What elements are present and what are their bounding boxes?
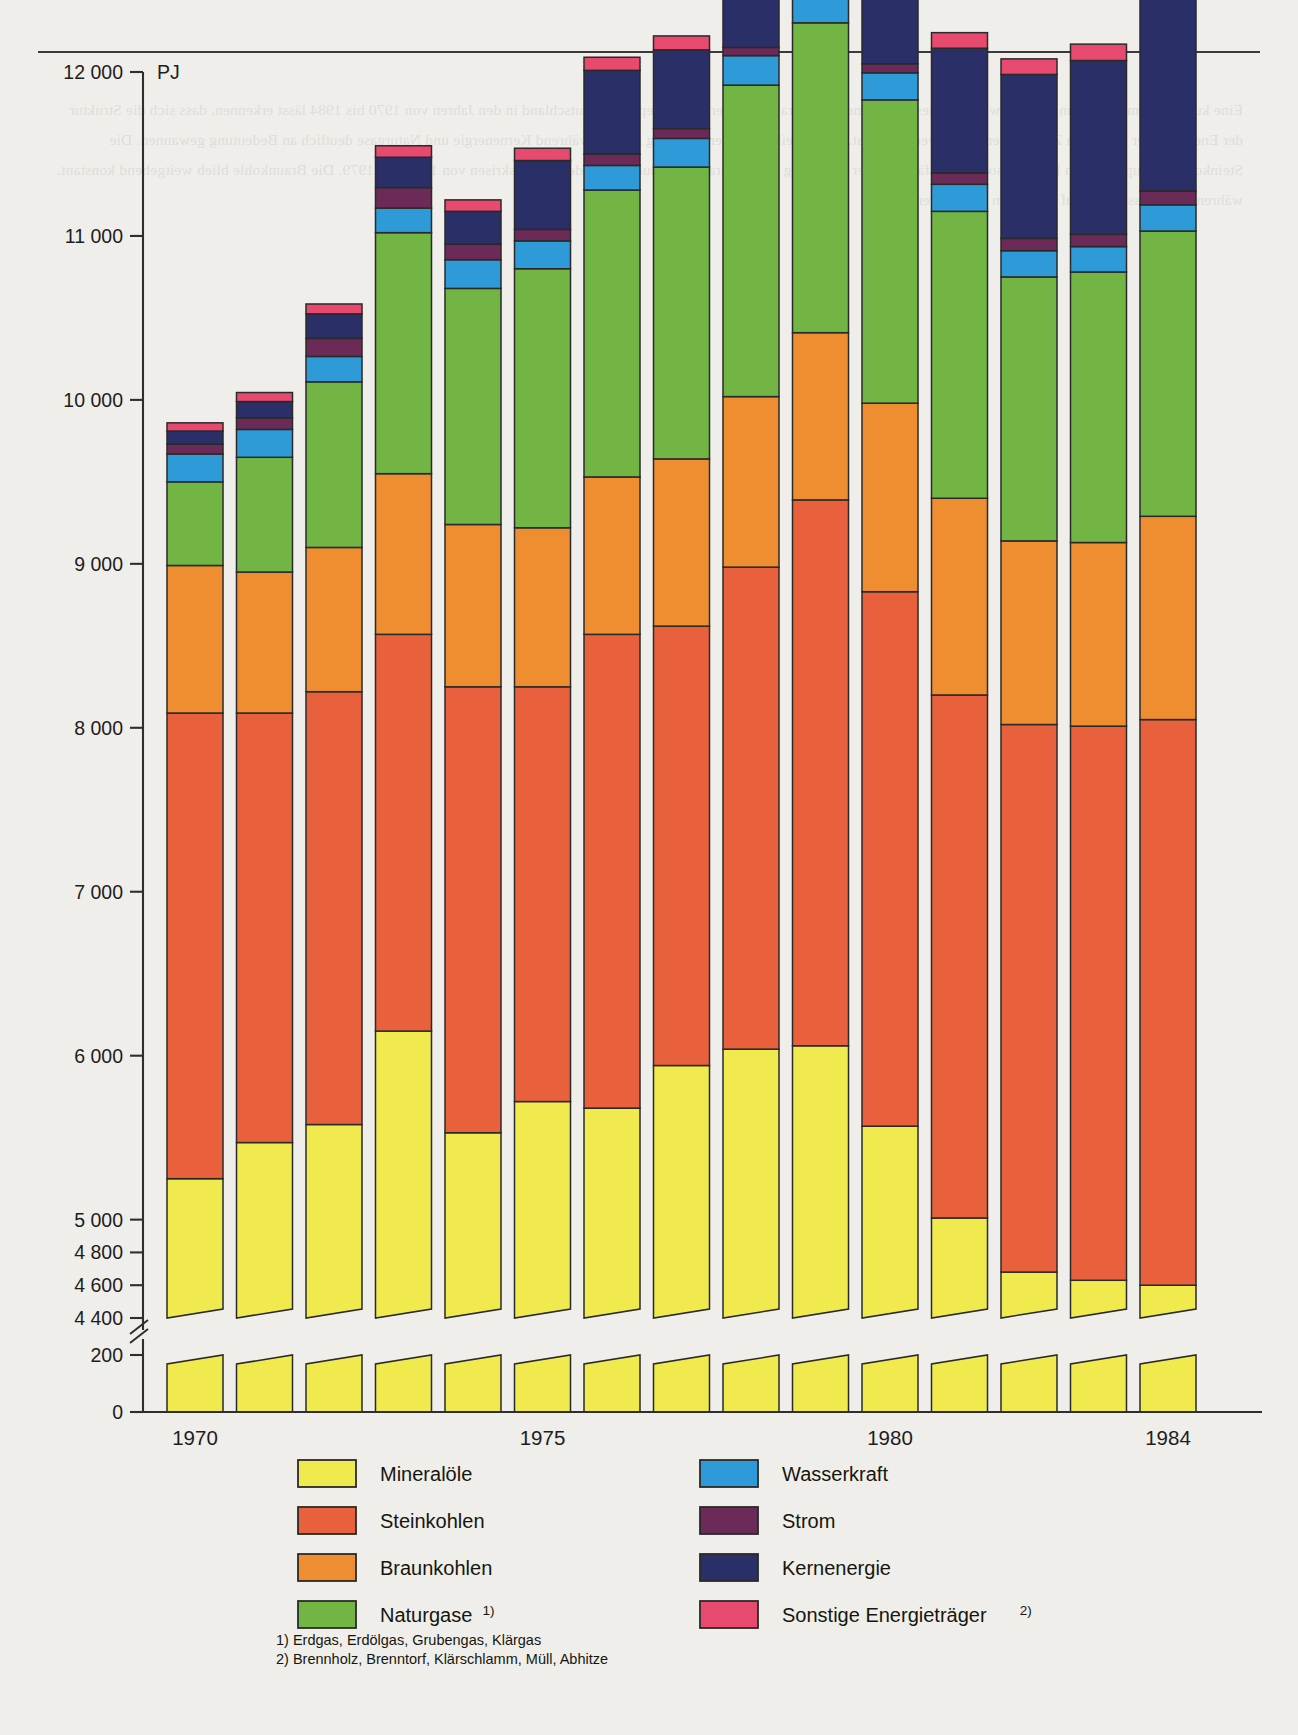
bar-base-stub — [793, 1355, 849, 1412]
bar-base-stub — [167, 1355, 223, 1412]
bar-segment — [1001, 725, 1057, 1273]
bar-segment — [1140, 0, 1196, 191]
bar-segment — [932, 173, 988, 184]
y-tick-label: 9 000 — [74, 553, 123, 575]
footnote: 1) Erdgas, Erdölgas, Grubengas, Klärgas — [276, 1632, 541, 1648]
x-tick-label: 1984 — [1145, 1426, 1191, 1449]
bar-segment — [862, 592, 918, 1126]
x-axis: 1970197519801984 — [143, 1412, 1262, 1449]
chart-container: 12 00011 00010 0009 0008 0007 0006 0005 … — [0, 0, 1298, 1735]
bar-segment — [1140, 231, 1196, 516]
bar-segment — [237, 713, 293, 1143]
bar-base-stub — [862, 1355, 918, 1412]
bar-base-stub — [932, 1355, 988, 1412]
footnote: 2) Brennholz, Brenntorf, Klärschlamm, Mü… — [276, 1651, 608, 1667]
bar-segment — [1001, 251, 1057, 277]
bar-segment — [1071, 726, 1127, 1280]
x-tick-label: 1975 — [520, 1426, 566, 1449]
legend-swatch — [700, 1507, 758, 1534]
y-tick-label: 4 400 — [74, 1307, 123, 1329]
bar-segment — [306, 382, 362, 548]
bar-segment — [376, 1031, 432, 1318]
bar-segment — [793, 1046, 849, 1318]
bar-segment — [445, 211, 501, 244]
legend-footnote-marker: 1) — [483, 1603, 495, 1618]
bar-segment — [584, 634, 640, 1108]
y-tick-label: 4 800 — [74, 1241, 123, 1263]
bar-segment — [306, 1125, 362, 1318]
legend-swatch — [298, 1460, 356, 1487]
bar-segment — [515, 528, 571, 687]
y-axis-unit-label: PJ — [157, 61, 180, 83]
bar-segment — [167, 1179, 223, 1318]
bar-segment — [584, 477, 640, 634]
bar-segment — [723, 47, 779, 55]
y-tick-label: 10 000 — [63, 389, 123, 411]
bar-segment — [237, 393, 293, 402]
bar-segment — [793, 333, 849, 500]
bar-segment — [167, 482, 223, 566]
y-tick-label: 200 — [90, 1344, 123, 1366]
bar-segment — [515, 269, 571, 528]
legend-label: Steinkohlen — [380, 1510, 485, 1532]
y-tick-label: 0 — [112, 1401, 123, 1423]
bar-segment — [1140, 191, 1196, 205]
bar-segment — [584, 165, 640, 190]
bar-segment — [584, 70, 640, 154]
bar-segment — [1001, 74, 1057, 238]
bar-base-stub — [515, 1355, 571, 1412]
bar-segment — [167, 423, 223, 431]
bar-segment — [237, 457, 293, 572]
legend-swatch — [298, 1601, 356, 1628]
bar-segment — [932, 1218, 988, 1318]
bar-segment — [306, 304, 362, 314]
bar-segment — [654, 1066, 710, 1318]
bar-segment — [723, 85, 779, 397]
bar-segment — [306, 338, 362, 356]
bar-segment — [376, 157, 432, 187]
bar-base-stub — [1140, 1355, 1196, 1412]
bar-segment — [723, 0, 779, 47]
bar-segment — [167, 431, 223, 444]
bar-base-stub — [376, 1355, 432, 1412]
y-tick-label: 5 000 — [74, 1209, 123, 1231]
bar-segment — [1140, 205, 1196, 231]
bar-segment — [445, 200, 501, 211]
bar-segment — [167, 454, 223, 482]
bar-segment — [862, 403, 918, 592]
bar-segment — [1071, 44, 1127, 60]
legend-swatch — [700, 1460, 758, 1487]
bar-segment — [237, 572, 293, 713]
bar-segment — [862, 100, 918, 403]
x-tick-label: 1970 — [172, 1426, 218, 1449]
bar-segment — [237, 418, 293, 429]
bar-segment — [862, 64, 918, 73]
bar-segment — [306, 692, 362, 1125]
bar-segment — [584, 1108, 640, 1318]
bar-segment — [515, 161, 571, 230]
bar-segment — [167, 444, 223, 454]
legend-label: Mineralöle — [380, 1463, 472, 1485]
bar-segment — [1140, 720, 1196, 1286]
bars-group — [167, 0, 1196, 1412]
bar-segment — [654, 459, 710, 626]
bar-segment — [167, 713, 223, 1179]
bar-segment — [515, 229, 571, 240]
y-axis: 12 00011 00010 0009 0008 0007 0006 0005 … — [63, 61, 179, 1423]
bar-segment — [654, 138, 710, 167]
bar-segment — [1140, 516, 1196, 719]
bar-segment — [1001, 238, 1057, 250]
legend-swatch — [700, 1554, 758, 1581]
bar-segment — [793, 500, 849, 1046]
bar-segment — [237, 1143, 293, 1318]
bar-segment — [306, 547, 362, 691]
bar-segment — [793, 23, 849, 333]
bar-segment — [723, 567, 779, 1049]
bar-segment — [932, 33, 988, 49]
bar-segment — [1001, 1272, 1057, 1318]
bar-segment — [584, 190, 640, 477]
x-tick-label: 1980 — [867, 1426, 913, 1449]
bar-segment — [1001, 277, 1057, 541]
bar-segment — [515, 148, 571, 160]
bar-segment — [654, 129, 710, 139]
